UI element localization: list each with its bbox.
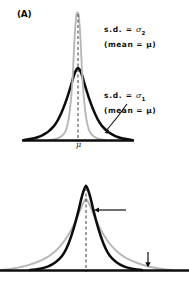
mean-tick-label-a: μ [76, 140, 81, 149]
statistics-figure: (A) s.d. = σ2 (mean = μ) s.d. = σ1 (mean… [0, 0, 189, 296]
annotation-a-sigma2: s.d. = σ2 (mean = μ) [104, 24, 156, 50]
annotation-a-sigma1: s.d. = σ1 (mean = μ) [104, 90, 156, 116]
annotation-a-sigma1-prefix: s.d. = [104, 91, 136, 100]
panel-b: (B) s.d. = σ1 s.d. = σ2 μ [0, 150, 189, 296]
panel-b-plot [0, 150, 189, 296]
panel-a-plot [0, 0, 189, 150]
annotation-a-sigma2-line2: (mean = μ) [104, 39, 156, 50]
annotation-a-sigma2-prefix: s.d. = [104, 25, 136, 34]
annotation-a-sigma1-line1: s.d. = σ1 [104, 90, 156, 105]
annotation-a-sigma2-line1: s.d. = σ2 [104, 24, 156, 39]
sigma-subscript: 2 [141, 30, 145, 36]
panel-a: (A) s.d. = σ2 (mean = μ) s.d. = σ1 (mean… [0, 0, 189, 150]
sigma-subscript: 1 [141, 96, 145, 102]
annotation-a-sigma1-line2: (mean = μ) [104, 105, 156, 116]
panel-a-label: (A) [17, 9, 31, 19]
